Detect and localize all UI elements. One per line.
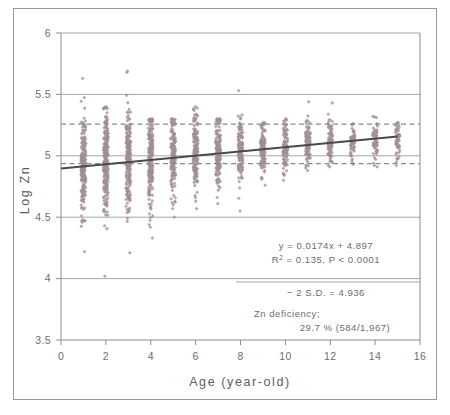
r-squared-symbol: R [272, 254, 279, 265]
scatter-point [215, 196, 219, 200]
scatter-point [83, 106, 87, 110]
scatter-point [169, 197, 173, 201]
scatter-point [216, 202, 220, 206]
scatter-point [103, 274, 107, 278]
scatter-point [83, 250, 87, 254]
scatter-point [394, 164, 398, 168]
scatter-point [79, 224, 83, 228]
scatter-point [330, 101, 334, 105]
scatter-point [371, 152, 375, 156]
y-tick-label-4: 4 [45, 272, 51, 284]
scatter-point [147, 197, 151, 201]
scatter-point [195, 207, 199, 211]
x-axis-tick-labels: 0 2 4 6 8 10 12 14 16 [58, 350, 426, 362]
scatter-point [128, 251, 132, 255]
y-tick-label-4-5: 4.5 [35, 211, 51, 223]
scatter-point [173, 215, 177, 219]
scatter-point [326, 112, 330, 116]
r-squared-value-and-p: = 0.135, P < 0.0001 [283, 254, 380, 265]
scatter-point [126, 101, 130, 105]
scatter-point [193, 184, 197, 188]
y-axis-title: Log Zn [18, 166, 32, 215]
annotation-block: y = 0.0174x + 4.897 R2 = 0.135, P < 0.00… [236, 240, 420, 333]
scatter-point [263, 183, 267, 187]
scatter-point [125, 93, 129, 97]
scatter-point [306, 114, 310, 118]
scatter-point [240, 113, 244, 117]
y-axis-ticks [56, 33, 61, 340]
x-tick-label-14: 14 [369, 350, 381, 362]
x-tick-label-10: 10 [279, 350, 291, 362]
scatter-point [170, 189, 174, 193]
scatter-point [171, 207, 175, 211]
scatter-point [125, 220, 129, 224]
figure-container: 6 5.5 5 4.5 4 3.5 0 2 4 6 8 10 12 14 16 … [0, 0, 450, 415]
x-tick-label-16: 16 [414, 350, 426, 362]
scatter-point [307, 100, 311, 104]
minus-2sd-text: − 2 S.D. = 4.936 [287, 287, 365, 298]
x-axis-ticks [61, 340, 420, 345]
scatter-point [82, 96, 86, 100]
scatter-point [195, 190, 199, 194]
y-axis-tick-labels: 6 5.5 5 4.5 4 3.5 [35, 27, 51, 346]
scatter-point [81, 77, 85, 81]
scatter-point [237, 89, 241, 93]
scatter-point [106, 213, 110, 217]
x-tick-label-2: 2 [103, 350, 109, 362]
y-tick-label-5: 5 [45, 149, 51, 161]
scatter-point [105, 111, 109, 115]
scatter-point [237, 196, 241, 200]
scatter-point [103, 224, 107, 228]
x-tick-label-6: 6 [192, 350, 198, 362]
y-tick-label-5-5: 5.5 [35, 88, 51, 100]
scatter-point [194, 199, 198, 203]
scatter-point [238, 186, 242, 190]
scatter-point [79, 99, 83, 103]
r-squared-text: R2 = 0.135, P < 0.0001 [272, 254, 380, 266]
scatter-point [285, 169, 289, 173]
x-tick-label-0: 0 [58, 350, 64, 362]
y-tick-label-6: 6 [45, 27, 51, 39]
plot-axes [61, 33, 420, 340]
x-tick-label-4: 4 [148, 350, 154, 362]
scatter-point [148, 212, 152, 216]
zn-deficiency-title: Zn deficiency; [254, 308, 320, 319]
scatter-point [238, 209, 242, 213]
x-tick-label-8: 8 [237, 350, 243, 362]
y-tick-label-3-5: 3.5 [35, 334, 51, 346]
regression-equation-text: y = 0.0174x + 4.897 [279, 240, 373, 251]
scatter-point [150, 199, 154, 203]
scatter-point [148, 218, 152, 222]
scatter-point [237, 180, 241, 184]
scatter-point [150, 236, 154, 240]
scatter-chart: 6 5.5 5 4.5 4 3.5 0 2 4 6 8 10 12 14 16 … [0, 0, 450, 415]
regression-trend-line [61, 136, 398, 168]
zn-deficiency-value: 29.7 % (584/1,967) [300, 322, 391, 333]
scatter-point [282, 178, 286, 182]
scatter-point [105, 227, 109, 231]
x-tick-label-12: 12 [324, 350, 336, 362]
x-axis-title: Age (year-old) [189, 375, 291, 389]
